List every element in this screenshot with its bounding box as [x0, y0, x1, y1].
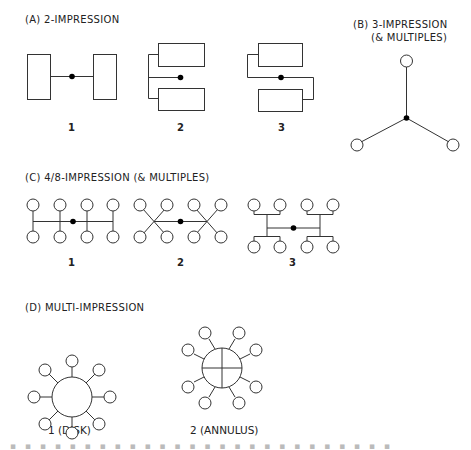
- layout-b-diagram: [351, 55, 459, 151]
- layout-d1-disk-diagram: [28, 355, 116, 439]
- figure-caption-partial: ▪ ▪ ▪ ▪ ▪ ▪ ▪ ▪ ▪ ▪ ▪ ▪ ▪ ▪ ▪ ▪ ▪ ▪ ▪ ▪ …: [10, 441, 393, 450]
- layout-a2-diagram: [149, 44, 205, 111]
- layout-c1-diagram: [27, 199, 119, 243]
- layout-a1-diagram: [28, 55, 117, 100]
- layout-a3-diagram: [248, 44, 314, 112]
- runner-layout-figure: [0, 0, 471, 450]
- cavity-rect: [94, 55, 117, 100]
- sprue-dot: [69, 74, 75, 80]
- layout-c3-diagram: [248, 199, 339, 253]
- cavity-rect: [28, 55, 51, 100]
- layout-d2-annulus-diagram: [182, 327, 262, 409]
- layout-c2-diagram: [134, 199, 227, 243]
